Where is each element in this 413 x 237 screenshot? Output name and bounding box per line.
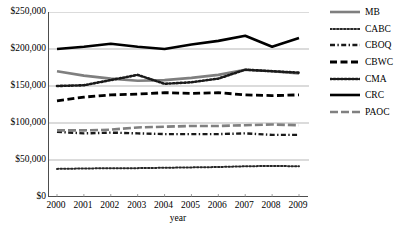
legend-label: CBWC xyxy=(365,57,393,67)
x-axis-tick-labels: 2000200120022003200420052006200720082009 xyxy=(48,200,308,212)
y-axis-tick-label: $200,000 xyxy=(0,44,46,54)
caption-sliver xyxy=(4,230,184,237)
series-line-crc xyxy=(57,36,299,49)
y-axis-tick-label: $250,000 xyxy=(0,7,46,17)
legend-label: CABC xyxy=(365,24,391,34)
chart-legend: MBCABCCBOQCBWCCMACRCPAOC xyxy=(330,4,413,120)
chart-figure: $250,000$200,000$150,000$100,000$50,000$… xyxy=(0,0,413,237)
legend-swatch-icon xyxy=(330,40,360,50)
series-line-paoc xyxy=(57,124,299,130)
plot-svg xyxy=(49,12,309,197)
legend-item-cboq[interactable]: CBOQ xyxy=(330,37,413,54)
series-line-cbwc xyxy=(57,93,299,101)
legend-item-crc[interactable]: CRC xyxy=(330,87,413,104)
legend-label: MB xyxy=(365,7,380,17)
legend-item-cma[interactable]: CMA xyxy=(330,70,413,87)
legend-swatch-icon xyxy=(330,107,360,117)
legend-item-paoc[interactable]: PAOC xyxy=(330,104,413,121)
legend-swatch-icon xyxy=(330,90,360,100)
legend-label: CMA xyxy=(365,74,387,84)
x-axis-title: year xyxy=(48,213,308,224)
legend-swatch-icon xyxy=(330,57,360,67)
y-axis-tick-label: $100,000 xyxy=(0,118,46,128)
y-axis-tick-label: $50,000 xyxy=(0,155,46,165)
legend-swatch-icon xyxy=(330,74,360,84)
legend-item-cabc[interactable]: CABC xyxy=(330,21,413,38)
legend-swatch-icon xyxy=(330,7,360,17)
legend-item-cbwc[interactable]: CBWC xyxy=(330,54,413,71)
plot-area xyxy=(48,12,308,197)
legend-label: CBOQ xyxy=(365,40,391,50)
x-axis-tick-label: 2009 xyxy=(281,200,315,211)
legend-item-mb[interactable]: MB xyxy=(330,4,413,21)
series-line-cabc xyxy=(57,166,299,169)
series-line-cboq xyxy=(57,132,299,135)
legend-swatch-icon xyxy=(330,24,360,34)
legend-label: CRC xyxy=(365,90,384,100)
legend-label: PAOC xyxy=(365,107,389,117)
y-axis-tick-label: $150,000 xyxy=(0,81,46,91)
